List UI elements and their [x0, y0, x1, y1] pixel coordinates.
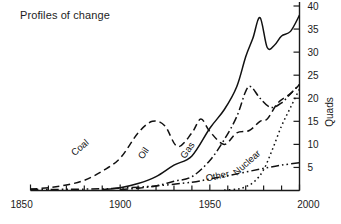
x-tick-label: 1900	[109, 199, 132, 210]
chart-axes	[31, 2, 300, 191]
x-tick-label: 1950	[199, 199, 222, 210]
y-tick-label: 20	[308, 93, 320, 104]
y-tick-label: 15	[308, 116, 320, 127]
x-axis-tick-labels: 1850190019502000	[11, 199, 320, 210]
series-label-oil: Oil	[135, 145, 151, 161]
y-tick-label: 35	[308, 24, 320, 35]
series-label-other: Other	[205, 168, 231, 184]
series-line-oil	[102, 15, 299, 189]
y-tick-label: 10	[308, 139, 320, 150]
chart-series-curves	[31, 15, 300, 190]
y-tick-label: 25	[308, 70, 320, 81]
x-tick-label: 2000	[297, 199, 320, 210]
y-tick-label: 40	[308, 1, 320, 12]
series-line-coal	[31, 84, 300, 189]
chart-series-labels: CoalOilGasNuclearOther	[69, 137, 263, 184]
x-tick-label: 1850	[11, 199, 34, 210]
chart-figure: Profiles of change 1850190019502000 5101…	[0, 0, 341, 224]
y-axis-tick-labels: 510152025303540	[308, 1, 320, 173]
x-axis-ticks	[31, 185, 300, 191]
y-tick-label: 5	[308, 162, 314, 173]
y-axis-title: Quads	[324, 97, 335, 126]
series-label-coal: Coal	[69, 137, 91, 158]
series-label-nuclear: Nuclear	[231, 147, 263, 177]
y-tick-label: 30	[308, 47, 320, 58]
chart-plot-area: 1850190019502000 510152025303540 Quads C…	[0, 0, 341, 224]
series-line-other	[31, 163, 300, 190]
series-label-gas: Gas	[178, 140, 197, 161]
